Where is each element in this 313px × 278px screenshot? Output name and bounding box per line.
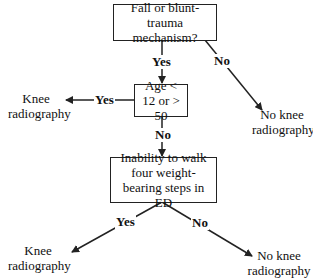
walk-decision-node: Inability to walk four weight-bearing st… <box>110 157 217 203</box>
edge-label-age-yes: Yes <box>94 93 115 107</box>
mechanism-node-text: Fall or blunt-trauma mechanism? <box>120 0 210 45</box>
edge-label-walk-yes: Yes <box>115 215 136 229</box>
edge-label-mechanism-yes: Yes <box>151 55 172 69</box>
age-node-text: Age < 12 or > 50 <box>138 78 184 123</box>
walk-node-text: Inability to walk four weight-bearing st… <box>115 150 212 210</box>
outcome-walk-no: No knee radiography <box>247 248 311 278</box>
age-decision-node: Age < 12 or > 50 <box>134 84 188 117</box>
edge-label-mechanism-no: No <box>213 54 231 68</box>
edge-label-walk-no: No <box>191 216 209 230</box>
edge-label-age-no: No <box>154 128 172 142</box>
mechanism-decision-node: Fall or blunt-trauma mechanism? <box>113 4 217 41</box>
outcome-walk-yes: Knee radiography <box>8 243 68 273</box>
outcome-mechanism-no: No knee radiography <box>252 107 312 137</box>
outcome-age-yes: Knee radiography <box>8 91 64 121</box>
